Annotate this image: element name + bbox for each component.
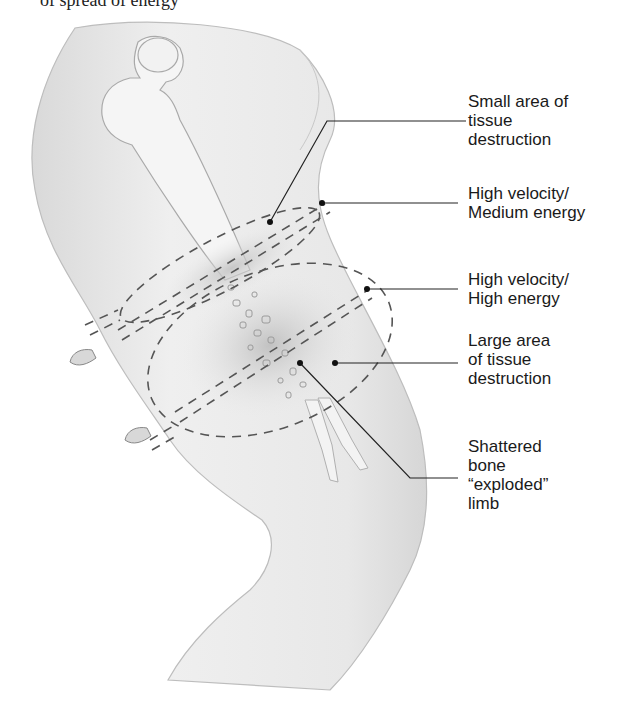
bullet-icon xyxy=(125,428,151,443)
label-high-velocity-medium-energy: High velocity/ Medium energy xyxy=(468,184,585,222)
label-high-velocity-high-energy: High velocity/ High energy xyxy=(468,270,569,308)
label-small-area: Small area of tissue destruction xyxy=(468,92,568,149)
label-large-area: Large area of tissue destruction xyxy=(468,331,551,388)
bullet-icon xyxy=(70,350,96,365)
label-shattered-bone: Shattered bone “exploded” limb xyxy=(468,437,548,513)
